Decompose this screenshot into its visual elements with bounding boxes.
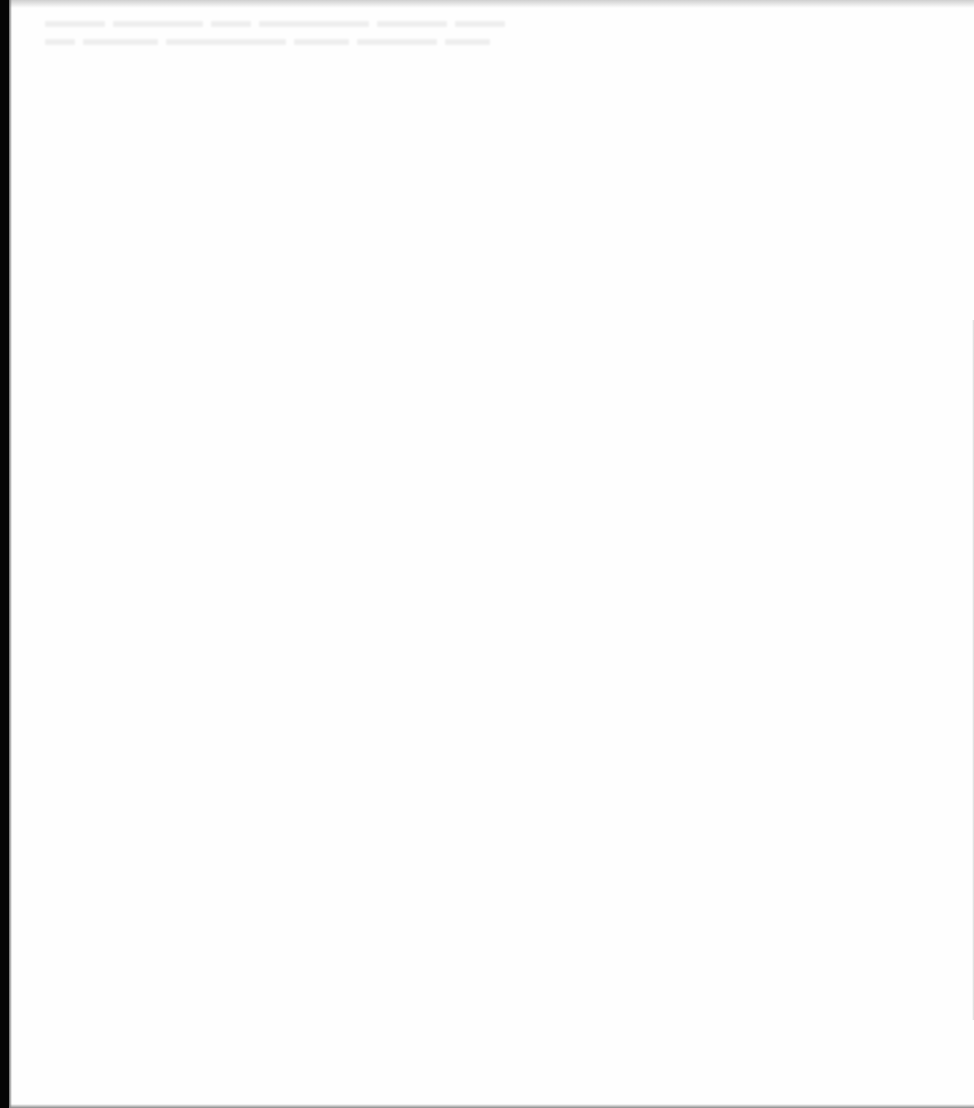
bleed-segment (294, 39, 349, 45)
bleed-segment (377, 21, 447, 27)
bleed-segment (211, 21, 251, 27)
page-binding-edge (0, 0, 9, 1108)
bleed-segment (357, 39, 437, 45)
scanned-page (0, 0, 974, 1108)
bleed-segment (259, 21, 369, 27)
page-top-edge-shadow (9, 0, 974, 8)
bleed-line-2 (45, 32, 515, 50)
bleed-through-text (45, 14, 515, 64)
bleed-segment (45, 21, 105, 27)
bleed-segment (45, 39, 75, 45)
bleed-line-1 (45, 14, 515, 32)
bleed-segment (166, 39, 286, 45)
bleed-segment (445, 39, 490, 45)
bleed-segment (455, 21, 505, 27)
bleed-segment (113, 21, 203, 27)
page-bottom-edge-shadow (9, 1104, 974, 1108)
bleed-segment (83, 39, 158, 45)
